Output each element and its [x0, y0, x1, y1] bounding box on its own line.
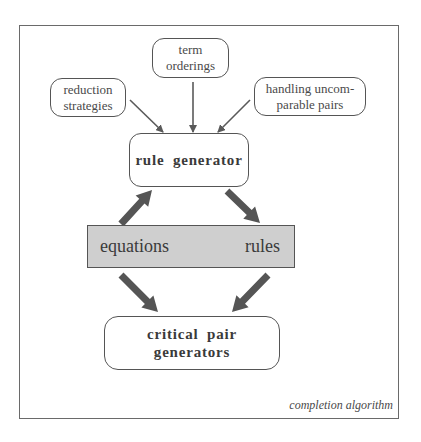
node-label-line: term	[179, 42, 203, 58]
node-label-line: parable pairs	[277, 97, 344, 113]
node-label: critical pair generators	[105, 325, 279, 361]
node-label: rule generator	[135, 151, 242, 169]
node-label-line: handling uncom-	[266, 81, 354, 97]
node-label-line: reduction	[63, 82, 112, 98]
diagram-caption: completion algorithm	[289, 398, 393, 413]
node-term-orderings: term orderings	[152, 38, 229, 78]
equations-rules-store: equations rules	[87, 225, 295, 268]
node-rule-generator: rule generator	[129, 133, 249, 187]
store-label-rules: rules	[245, 236, 280, 257]
node-label-line: orderings	[166, 58, 215, 74]
node-reduction-strategies: reduction strategies	[50, 78, 126, 117]
node-critical-pair-generators: critical pair generators	[104, 316, 280, 370]
store-label-equations: equations	[100, 236, 169, 257]
node-handling-uncomparable-pairs: handling uncom- parable pairs	[254, 77, 366, 116]
node-label-line: strategies	[63, 98, 112, 114]
